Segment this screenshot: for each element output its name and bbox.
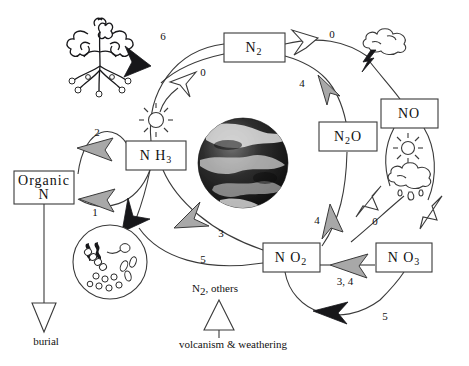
path-no3-loop-bottom-2 xyxy=(380,272,404,300)
node-n2[interactable]: N2 xyxy=(224,33,285,62)
path-lightning-to-no xyxy=(370,62,400,99)
node-organic-n-label-line2: N xyxy=(38,187,49,202)
sun-icon xyxy=(393,133,423,163)
path-no-down-right xyxy=(424,128,434,200)
rain-cloud-icon xyxy=(388,163,430,200)
node-no2[interactable]: N O2 xyxy=(263,243,320,272)
arrowhead-n2-to-no xyxy=(292,30,318,55)
flux-label-3: 3 xyxy=(218,227,224,239)
path-sun-left-stem xyxy=(160,88,178,112)
flux-label-2: 2 xyxy=(94,126,100,138)
flux-label-0-n2-no: 0 xyxy=(329,28,335,40)
arrowhead-n2-to-nh3 xyxy=(170,72,196,97)
node-no[interactable]: NO xyxy=(381,99,438,128)
flux-label-5-bottom: 5 xyxy=(382,310,388,322)
arrowhead-n2o-to-n2 xyxy=(318,75,340,105)
node-organic-n-label-line1: Organic xyxy=(18,173,70,188)
path-n2-to-nh3 xyxy=(161,54,224,83)
sun-icon xyxy=(139,103,173,137)
arrowhead-volcanism xyxy=(204,300,234,330)
arrowhead-nh3-to-n2 xyxy=(124,46,151,77)
burial-label: burial xyxy=(33,335,59,347)
arrowhead-raincloud-left xyxy=(356,186,381,217)
node-no-label: NO xyxy=(398,106,420,121)
diagram-canvas: N2 NO N2O N H3 Organic xyxy=(0,0,469,366)
node-no3[interactable]: N O3 xyxy=(376,243,432,272)
captions: burial volcanism & weathering N2, others xyxy=(33,282,287,350)
path-nh3-down-black xyxy=(136,170,150,219)
earth-globe-icon xyxy=(198,118,292,209)
lightning-cloud-icon xyxy=(362,29,406,72)
n2-others-label: N2, others xyxy=(192,282,238,297)
node-nh3[interactable]: N H3 xyxy=(126,141,186,170)
flux-label-4-n2o-n2: 4 xyxy=(299,77,305,89)
plant-icon xyxy=(67,18,133,97)
node-n2o[interactable]: N2O xyxy=(319,122,377,151)
arrowhead-raincloud-right xyxy=(420,196,442,229)
flux-label-4-no2-n2o: 4 xyxy=(314,214,320,226)
arrowhead-bottom-loop xyxy=(313,302,348,324)
microbes-circle-icon xyxy=(73,225,147,299)
flux-label-0-no3: 0 xyxy=(372,215,378,227)
flux-label-3-4: 3, 4 xyxy=(337,275,354,287)
nitrogen-cycle-diagram: N2 NO N2O N H3 Organic xyxy=(0,0,469,366)
path-n2o-to-n2 xyxy=(285,56,346,122)
flux-label-1: 1 xyxy=(92,206,98,218)
arrowhead-nh3-down xyxy=(122,198,150,232)
flux-label-0-nh3-n2: 0 xyxy=(200,66,206,78)
flux-label-6: 6 xyxy=(160,30,166,42)
arrowhead-nh3-to-organicn xyxy=(77,138,113,161)
arrowhead-no2-to-nh3 xyxy=(174,202,209,228)
flux-label-5-left: 5 xyxy=(200,253,206,265)
node-organic-n[interactable]: Organic N xyxy=(14,171,74,204)
volcanism-label: volcanism & weathering xyxy=(179,338,288,350)
arrowhead-burial xyxy=(32,303,56,332)
